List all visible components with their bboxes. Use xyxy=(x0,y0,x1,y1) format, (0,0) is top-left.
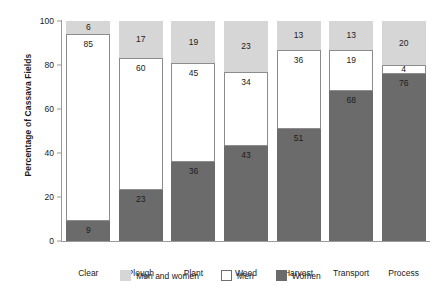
bar-segment-women[interactable]: 23 xyxy=(119,190,163,241)
legend-label: Men xyxy=(237,271,254,281)
bar-value-label: 19 xyxy=(346,56,355,65)
bar-group-plant[interactable]: 364519 xyxy=(171,21,215,241)
legend-item-women[interactable]: Women xyxy=(276,270,321,281)
bar-segment-men[interactable]: 45 xyxy=(171,63,215,162)
y-tick-mark xyxy=(57,65,62,66)
bar-segment-men[interactable]: 34 xyxy=(224,72,268,147)
y-tick-label: 100 xyxy=(0,16,62,26)
bar-value-label: 43 xyxy=(241,151,250,160)
bar-value-label: 19 xyxy=(189,38,198,47)
legend-swatch xyxy=(221,270,232,281)
bar-value-label: 4 xyxy=(401,65,406,74)
bar-value-label: 9 xyxy=(86,226,91,235)
bar-segment-women[interactable]: 43 xyxy=(224,146,268,241)
bar-value-label: 60 xyxy=(136,64,145,73)
bar-value-label: 17 xyxy=(136,35,145,44)
bar-stack: 433423 xyxy=(224,21,268,241)
bar-segment-women[interactable]: 51 xyxy=(277,129,321,241)
y-tick-mark xyxy=(57,241,62,242)
bar-segment-men[interactable]: 19 xyxy=(329,50,373,92)
bar-value-label: 36 xyxy=(189,167,198,176)
bar-value-label: 20 xyxy=(399,39,408,48)
bar-segment-women[interactable]: 68 xyxy=(329,91,373,241)
bar-segment-men-and-women[interactable]: 13 xyxy=(329,21,373,50)
plot-area: 0204060801009856Clear236017Plough364519P… xyxy=(62,21,430,241)
bar-group-transport[interactable]: 681913 xyxy=(329,21,373,241)
bar-value-label: 85 xyxy=(84,40,93,49)
bar-segment-men-and-women[interactable]: 23 xyxy=(224,21,268,72)
bar-value-label: 34 xyxy=(241,78,250,87)
bar-stack: 236017 xyxy=(119,21,163,241)
legend: Men and womenMenWomen xyxy=(0,270,441,281)
bar-segment-men[interactable]: 60 xyxy=(119,58,163,190)
bar-group-plough[interactable]: 236017 xyxy=(119,21,163,241)
bar-segment-men-and-women[interactable]: 20 xyxy=(382,21,426,65)
bar-segment-men-and-women[interactable]: 19 xyxy=(171,21,215,63)
legend-swatch xyxy=(276,270,287,281)
bar-group-clear[interactable]: 9856 xyxy=(66,21,110,241)
legend-item-men[interactable]: Men xyxy=(221,270,254,281)
bar-segment-women[interactable]: 76 xyxy=(382,74,426,241)
bar-segment-men-and-women[interactable]: 17 xyxy=(119,21,163,58)
bar-value-label: 36 xyxy=(294,56,303,65)
y-tick-label: 20 xyxy=(0,192,62,202)
bar-segment-men-and-women[interactable]: 13 xyxy=(277,21,321,50)
bar-segment-men[interactable]: 36 xyxy=(277,50,321,129)
bar-value-label: 23 xyxy=(241,42,250,51)
bar-value-label: 6 xyxy=(86,23,91,32)
bar-segment-men[interactable]: 85 xyxy=(66,34,110,221)
bar-value-label: 13 xyxy=(346,31,355,40)
bar-stack: 364519 xyxy=(171,21,215,241)
bar-segment-women[interactable]: 36 xyxy=(171,162,215,241)
bar-value-label: 51 xyxy=(294,134,303,143)
stacked-bar-chart: Percentage of Cassava Fields 02040608010… xyxy=(0,0,441,304)
legend-item-men-and-women[interactable]: Men and women xyxy=(120,270,199,281)
bar-group-harvest[interactable]: 513613 xyxy=(277,21,321,241)
bar-segment-men[interactable]: 4 xyxy=(382,65,426,74)
y-tick-mark xyxy=(57,153,62,154)
y-tick-mark xyxy=(57,109,62,110)
bar-stack: 9856 xyxy=(66,21,110,241)
y-tick-label: 60 xyxy=(0,104,62,114)
y-tick-mark xyxy=(57,21,62,22)
bar-value-label: 23 xyxy=(136,195,145,204)
y-tick-label: 40 xyxy=(0,148,62,158)
bar-segment-men-and-women[interactable]: 6 xyxy=(66,21,110,34)
legend-swatch xyxy=(120,270,131,281)
bar-stack: 681913 xyxy=(329,21,373,241)
y-tick-label: 80 xyxy=(0,60,62,70)
y-tick-label: 0 xyxy=(0,236,62,246)
bar-group-weed[interactable]: 433423 xyxy=(224,21,268,241)
legend-label: Men and women xyxy=(136,271,199,281)
legend-label: Women xyxy=(292,271,321,281)
bar-value-label: 76 xyxy=(399,79,408,88)
bar-value-label: 13 xyxy=(294,31,303,40)
bar-stack: 513613 xyxy=(277,21,321,241)
y-tick-mark xyxy=(57,197,62,198)
bar-value-label: 45 xyxy=(189,69,198,78)
bar-stack: 76420 xyxy=(382,21,426,241)
bar-group-process[interactable]: 76420 xyxy=(382,21,426,241)
x-axis-line xyxy=(61,241,430,242)
bar-value-label: 68 xyxy=(346,96,355,105)
bar-segment-women[interactable]: 9 xyxy=(66,221,110,241)
